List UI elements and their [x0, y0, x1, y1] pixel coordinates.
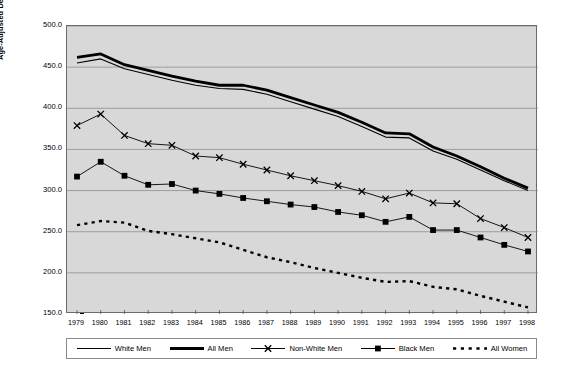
data-point-marker [382, 196, 388, 202]
y-tick-label: 350.0 [22, 143, 62, 152]
data-point-marker [311, 177, 317, 183]
data-point-marker [74, 122, 80, 128]
legend-symbol [452, 343, 488, 354]
data-point-marker [359, 212, 365, 218]
chart-container: Age-Adjusted Death Rate per 100,000 Popu… [0, 0, 568, 371]
data-point-marker [98, 159, 104, 165]
legend-label: White Men [115, 344, 151, 353]
legend-item-black-men[interactable]: Black Men [360, 343, 434, 354]
data-point-marker [359, 188, 365, 194]
data-point-marker [98, 111, 104, 117]
y-tick-label: 250.0 [22, 226, 62, 235]
data-point-marker [121, 132, 127, 138]
y-tick-label: 450.0 [22, 61, 62, 70]
data-point-marker [169, 181, 175, 187]
data-point-marker [430, 227, 436, 233]
series-non-white-men [74, 111, 531, 241]
legend-item-all-men[interactable]: All Men [169, 343, 233, 354]
y-tick-label: 150.0 [22, 308, 62, 317]
data-point-marker [311, 204, 317, 210]
series-line [77, 114, 528, 237]
series-white-men [77, 59, 528, 191]
legend-label: All Men [208, 344, 233, 353]
data-point-marker [454, 227, 460, 233]
legend-label: Non-White Men [289, 344, 342, 353]
data-point-marker [525, 234, 531, 240]
data-point-marker [264, 167, 270, 173]
data-point-marker [240, 161, 246, 167]
y-axis-ticks: 500.0450.0400.0350.0300.0250.0200.0150.0 [18, 0, 62, 371]
series-line [77, 221, 528, 307]
legend-symbol [76, 343, 112, 354]
legend-label: All Women [491, 344, 528, 353]
legend-item-non-white-men[interactable]: Non-White Men [250, 343, 342, 354]
data-point-marker [264, 198, 270, 204]
data-point-marker [335, 182, 341, 188]
data-point-marker [501, 242, 507, 248]
data-point-marker [145, 182, 151, 188]
chart-legend: White MenAll MenNon-White MenBlack MenAl… [66, 338, 537, 359]
data-point-marker [501, 224, 507, 230]
data-point-marker [193, 188, 199, 194]
plot-area [66, 25, 537, 313]
series-line [77, 162, 528, 252]
data-point-marker [478, 235, 484, 241]
data-point-marker [240, 195, 246, 201]
y-tick-label: 500.0 [22, 20, 62, 29]
series-black-men [74, 159, 531, 254]
data-point-marker [74, 174, 80, 180]
legend-item-all-women[interactable]: All Women [452, 343, 528, 354]
data-point-marker [287, 173, 293, 179]
data-point-marker [406, 214, 412, 220]
legend-item-white-men[interactable]: White Men [76, 343, 151, 354]
series-line [77, 59, 528, 191]
chart-plot-svg [67, 26, 538, 314]
data-point-marker [383, 219, 389, 225]
legend-symbol [169, 343, 205, 354]
data-point-marker [525, 249, 531, 255]
series-all-women [77, 221, 528, 307]
x-tick-label: 1998 [512, 318, 542, 327]
data-point-marker [288, 202, 294, 208]
y-axis-title: Age-Adjusted Death Rate per 100,000 Popu… [0, 0, 5, 60]
legend-symbol [250, 343, 286, 354]
data-point-marker [122, 173, 128, 179]
data-point-marker [217, 191, 223, 197]
y-tick-label: 400.0 [22, 102, 62, 111]
y-tick-label: 300.0 [22, 185, 62, 194]
data-point-marker [477, 215, 483, 221]
data-point-marker [335, 209, 341, 215]
y-tick-label: 200.0 [22, 267, 62, 276]
legend-symbol [360, 343, 396, 354]
legend-label: Black Men [399, 344, 434, 353]
